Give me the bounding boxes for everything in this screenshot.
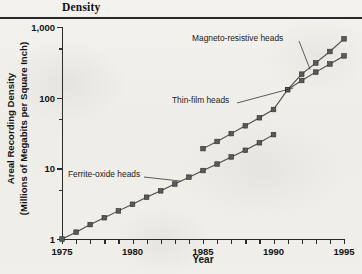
x-tick-1982: [161, 239, 162, 244]
y-axis-title-line2: (Millions of Megabits per Square Inch): [17, 42, 28, 215]
x-tick-1979: [118, 239, 119, 244]
x-tick-1992: [302, 239, 303, 244]
x-tick-1986: [217, 239, 218, 244]
data-point: [229, 131, 234, 136]
x-tick-1987: [231, 239, 232, 244]
x-tick-1995: [344, 239, 345, 244]
x-tick-1993: [316, 239, 317, 244]
data-point: [215, 139, 220, 144]
x-tick-1983: [175, 239, 176, 244]
data-point: [173, 182, 178, 187]
data-point: [201, 168, 206, 173]
data-point: [60, 237, 65, 242]
x-tick-1990: [274, 239, 275, 244]
y-tick-label-1,000: 1,000: [31, 22, 55, 33]
x-tick-1994: [330, 239, 331, 244]
data-point: [187, 175, 192, 180]
data-point: [116, 209, 121, 214]
y-tick-label-1: 1: [50, 234, 55, 245]
data-point: [257, 115, 262, 120]
data-point: [88, 222, 93, 227]
x-tick-1976: [76, 239, 77, 244]
y-tick-label-10: 10: [44, 163, 55, 174]
annotation-magneto-resistive: Magneto-resistive heads: [192, 33, 283, 43]
data-point: [257, 140, 262, 145]
data-point: [215, 162, 220, 167]
y-axis-title-line1: Areal Recording Density: [5, 73, 16, 184]
data-point: [314, 61, 319, 66]
data-point: [229, 155, 234, 160]
data-point: [342, 37, 347, 42]
data-point: [314, 70, 319, 75]
x-tick-1991: [288, 239, 289, 244]
data-point: [285, 87, 290, 92]
x-tick-1978: [104, 239, 105, 244]
x-tick-1980: [133, 239, 134, 244]
x-tick-1989: [259, 239, 260, 244]
data-point: [130, 202, 135, 207]
x-tick-1981: [147, 239, 148, 244]
x-tick-1985: [203, 239, 204, 244]
x-tick-1988: [245, 239, 246, 244]
y-axis-title-container: Areal Recording Density (Millions of Meg…: [0, 20, 34, 248]
data-point: [201, 146, 206, 151]
y-tick-label-100: 100: [39, 92, 55, 103]
annotation-thin-film: Thin-film heads: [172, 95, 229, 105]
data-point: [102, 215, 107, 220]
data-point: [243, 123, 248, 128]
data-point: [342, 54, 347, 59]
data-point: [271, 107, 276, 112]
data-point: [243, 148, 248, 153]
x-tick-1977: [90, 239, 91, 244]
series-line-ferrite-oxide-heads: [62, 135, 274, 239]
data-point: [271, 132, 276, 137]
data-point: [328, 49, 333, 54]
annotation-ferrite-oxide: Ferrite-oxide heads: [68, 169, 140, 179]
page-title: Density: [62, 1, 100, 13]
x-tick-1984: [189, 239, 190, 244]
data-point: [328, 62, 333, 67]
data-point: [158, 189, 163, 194]
title-divider: [0, 17, 362, 19]
x-axis-title: Year: [62, 254, 344, 265]
y-axis-title: Areal Recording Density (Millions of Meg…: [5, 21, 30, 237]
data-point: [299, 78, 304, 83]
data-point: [144, 195, 149, 200]
data-series-layer: [62, 27, 344, 239]
chart-plot-area: 1101001,000 19751980198519901995 Magneto…: [62, 27, 344, 239]
data-point: [74, 230, 79, 235]
data-point: [299, 72, 304, 77]
